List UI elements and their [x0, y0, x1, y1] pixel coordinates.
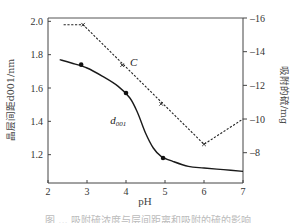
x-tick-label: 5	[163, 186, 168, 197]
left-y-axis-title: 晶层间距d001/nm	[5, 59, 16, 142]
d001-curve	[60, 60, 243, 172]
c-vertex-marker	[81, 23, 85, 27]
d001-data-point	[79, 62, 84, 67]
right-y-axis-title: 吸附的硫/mg	[279, 66, 290, 124]
x-tick-label: 4	[124, 186, 129, 197]
x-tick-label: 6	[202, 186, 207, 197]
right-y-tick-label: –8	[249, 147, 260, 158]
plot-frame	[48, 18, 243, 183]
left-y-tick-label: 2.0	[31, 16, 44, 27]
d001-data-point	[124, 91, 129, 96]
d001-data-point	[161, 156, 166, 161]
x-tick-label: 3	[85, 186, 90, 197]
x-tick-label: 2	[46, 186, 51, 197]
left-y-tick-label: 1.6	[31, 83, 44, 94]
right-y-axis-ticks: –8–10–12–14–16	[243, 13, 265, 159]
right-y-tick-label: –10	[249, 114, 265, 125]
d001-series-label: d001	[110, 114, 126, 128]
figure-caption: 图 ... 吸附硫浓度与层间距离和吸附的硫的影响	[0, 212, 296, 223]
sulfur-c-line	[64, 25, 243, 145]
x-tick-label: 7	[241, 186, 246, 197]
x-axis-title: pH	[138, 195, 152, 207]
left-y-tick-label: 1.2	[31, 149, 44, 160]
c-series-label: C	[130, 56, 138, 68]
right-y-tick-label: –12	[249, 80, 265, 91]
right-y-tick-label: –16	[249, 13, 265, 24]
chart-svg: 234567 1.21.41.61.82.0 –8–10–12–14–16 Cd…	[0, 0, 296, 223]
left-y-tick-label: 1.8	[31, 49, 44, 60]
series-layer: Cd001	[60, 23, 243, 171]
left-y-tick-label: 1.4	[31, 116, 44, 127]
right-y-tick-label: –14	[249, 46, 265, 57]
c-vertex-marker	[202, 142, 206, 146]
